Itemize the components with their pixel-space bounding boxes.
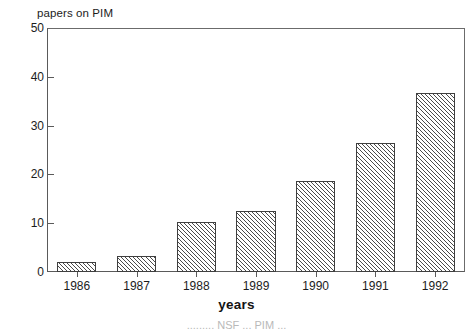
x-tick-1990 (316, 272, 317, 277)
x-tick-label-1988: 1988 (166, 279, 226, 293)
x-tick-label-1987: 1987 (107, 279, 167, 293)
bar-1988 (177, 222, 216, 272)
x-tick-1992 (435, 272, 436, 277)
x-tick-1988 (196, 272, 197, 277)
x-tick-1989 (256, 272, 257, 277)
y-tick-label-10: 10 (4, 217, 44, 229)
x-tick-label-1992: 1992 (405, 279, 465, 293)
x-axis-title: years (0, 297, 473, 312)
bar-1991 (356, 143, 395, 272)
bar-1987 (117, 256, 156, 272)
y-tick-10 (47, 223, 54, 224)
x-tick-1987 (137, 272, 138, 277)
y-tick-40 (47, 77, 54, 78)
bar-1992 (416, 93, 455, 272)
bar-1989 (236, 211, 275, 272)
x-tick-1986 (77, 272, 78, 277)
y-tick-30 (47, 126, 54, 127)
y-tick-label-30: 30 (4, 120, 44, 132)
y-tick-label-40: 40 (4, 71, 44, 83)
y-tick-label-0: 0 (4, 266, 44, 278)
x-tick-1991 (375, 272, 376, 277)
y-tick-20 (47, 174, 54, 175)
bar-1986 (57, 262, 96, 272)
x-tick-label-1990: 1990 (286, 279, 346, 293)
bar-1990 (296, 181, 335, 272)
x-tick-label-1986: 1986 (47, 279, 107, 293)
y-axis-title: papers on PIM (37, 7, 113, 19)
y-tick-label-50: 50 (4, 22, 44, 34)
figure-caption-clipped: ......... NSF ... PIM ... (0, 319, 473, 331)
x-tick-label-1991: 1991 (345, 279, 405, 293)
y-tick-label-20: 20 (4, 168, 44, 180)
x-tick-label-1989: 1989 (226, 279, 286, 293)
